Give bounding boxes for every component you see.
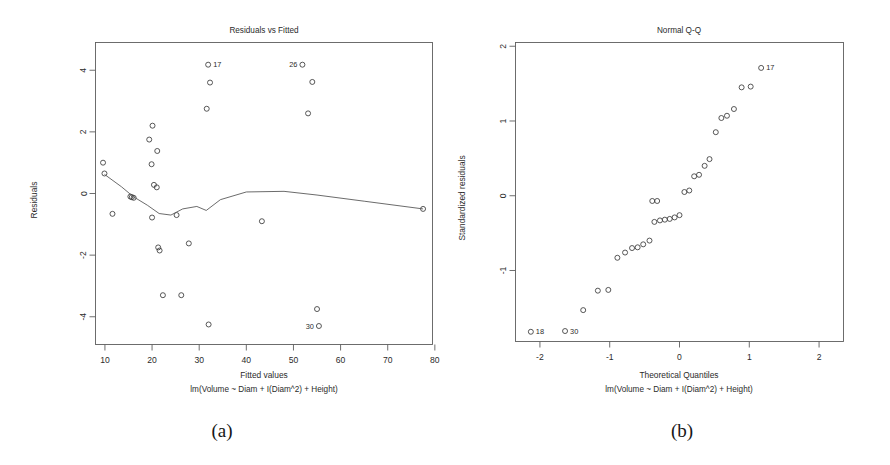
point-label-17: 17: [766, 63, 774, 72]
data-point: [150, 123, 155, 128]
data-point: [606, 287, 611, 292]
data-point: [623, 250, 628, 255]
plot-frame: [516, 43, 844, 342]
data-point: [682, 190, 687, 195]
data-point: [186, 241, 191, 246]
data-points: [528, 65, 763, 334]
chart-svg-residuals-vs-fitted: Residuals vs Fitted 420-2-4 102030405060…: [0, 0, 450, 465]
chart-subtitle: lm(Volume ~ Diam + I(Diam^2) + Height): [605, 385, 753, 394]
panel-residuals-vs-fitted: Residuals vs Fitted 420-2-4 102030405060…: [0, 0, 450, 465]
chart-title: Normal Q-Q: [657, 26, 701, 35]
x-tick-label: 80: [430, 355, 440, 365]
data-point: [316, 324, 321, 329]
data-point: [528, 329, 533, 334]
x-tick-label: 60: [336, 355, 346, 365]
chart-subtitle: lm(Volume ~ Diam + I(Diam^2) + Height): [190, 385, 338, 394]
data-point: [724, 113, 729, 118]
x-tick-label: 70: [383, 355, 393, 365]
x-tick-label: 0: [677, 352, 682, 362]
data-point: [672, 215, 677, 220]
y-tick-label: 2: [79, 129, 89, 134]
data-point: [101, 160, 106, 165]
chart-svg-normal-qq: Normal Q-Q 210-1 -2-1012 183017 Standard…: [450, 0, 890, 465]
data-point: [157, 248, 162, 253]
panel-normal-qq: Normal Q-Q 210-1 -2-1012 183017 Standard…: [450, 0, 890, 465]
panel-caption-b: (b): [671, 420, 693, 442]
y-tick-label: 4: [79, 68, 89, 73]
point-labels: 172630: [213, 60, 314, 330]
data-point: [707, 157, 712, 162]
data-point: [650, 198, 655, 203]
x-tick-label: -1: [606, 352, 614, 362]
x-axis-ticks: 1020304050607080: [100, 345, 440, 365]
point-label-30: 30: [570, 327, 578, 336]
data-point: [630, 246, 635, 251]
data-points: [101, 62, 426, 328]
data-point: [259, 219, 264, 224]
data-point: [315, 307, 320, 312]
x-tick-label: 30: [194, 355, 204, 365]
x-axis-ticks: -2-1012: [536, 342, 822, 362]
data-point: [208, 80, 213, 85]
y-tick-label: 1: [499, 118, 509, 123]
data-point: [692, 174, 697, 179]
y-axis-ticks: 420-2-4: [79, 68, 96, 321]
data-point: [657, 218, 662, 223]
data-point: [110, 211, 115, 216]
data-point: [713, 130, 718, 135]
x-axis-title: Fitted values: [240, 370, 287, 380]
point-label-17: 17: [213, 60, 221, 69]
data-point: [150, 215, 155, 220]
plot-frame: [96, 43, 433, 345]
data-point: [748, 84, 753, 89]
y-tick-label: 2: [499, 44, 509, 49]
point-label-18: 18: [536, 327, 544, 336]
data-point: [149, 162, 154, 167]
data-point: [641, 242, 646, 247]
figure-regression-diagnostics: Residuals vs Fitted 420-2-4 102030405060…: [0, 0, 890, 465]
data-point: [647, 238, 652, 243]
data-point: [206, 62, 211, 67]
data-point: [652, 219, 657, 224]
data-point: [702, 163, 707, 168]
x-tick-label: 1: [747, 352, 752, 362]
x-tick-label: -2: [536, 352, 544, 362]
data-point: [204, 106, 209, 111]
y-tick-label: -1: [499, 266, 509, 274]
y-tick-label: 0: [499, 193, 509, 198]
data-point: [677, 213, 682, 218]
smooth-curve: [104, 174, 423, 215]
y-axis-title: Residuals: [29, 182, 39, 219]
x-tick-label: 40: [242, 355, 252, 365]
y-tick-label: -4: [79, 313, 89, 321]
data-point: [156, 245, 161, 250]
chart-title: Residuals vs Fitted: [229, 26, 299, 35]
data-point: [300, 62, 305, 67]
y-tick-label: -2: [79, 251, 89, 259]
x-tick-label: 20: [147, 355, 157, 365]
y-axis-title: Standardized residuals: [457, 155, 467, 240]
data-point: [697, 172, 702, 177]
point-label-30: 30: [306, 322, 314, 331]
x-tick-label: 10: [100, 355, 110, 365]
data-point: [595, 288, 600, 293]
data-point: [155, 148, 160, 153]
data-point: [206, 322, 211, 327]
data-point: [635, 245, 640, 250]
data-point: [179, 293, 184, 298]
data-point: [719, 116, 724, 121]
data-point: [306, 111, 311, 116]
x-tick-label: 50: [289, 355, 299, 365]
y-axis-ticks: 210-1: [499, 44, 516, 275]
data-point: [731, 107, 736, 112]
data-point: [160, 293, 165, 298]
point-label-26: 26: [289, 60, 297, 69]
data-point: [667, 216, 672, 221]
x-axis-title: Theoretical Quantiles: [639, 370, 718, 380]
data-point: [662, 217, 667, 222]
data-point: [563, 329, 568, 334]
data-point: [687, 188, 692, 193]
y-tick-label: 0: [79, 191, 89, 196]
data-point: [147, 137, 152, 142]
data-point: [615, 255, 620, 260]
